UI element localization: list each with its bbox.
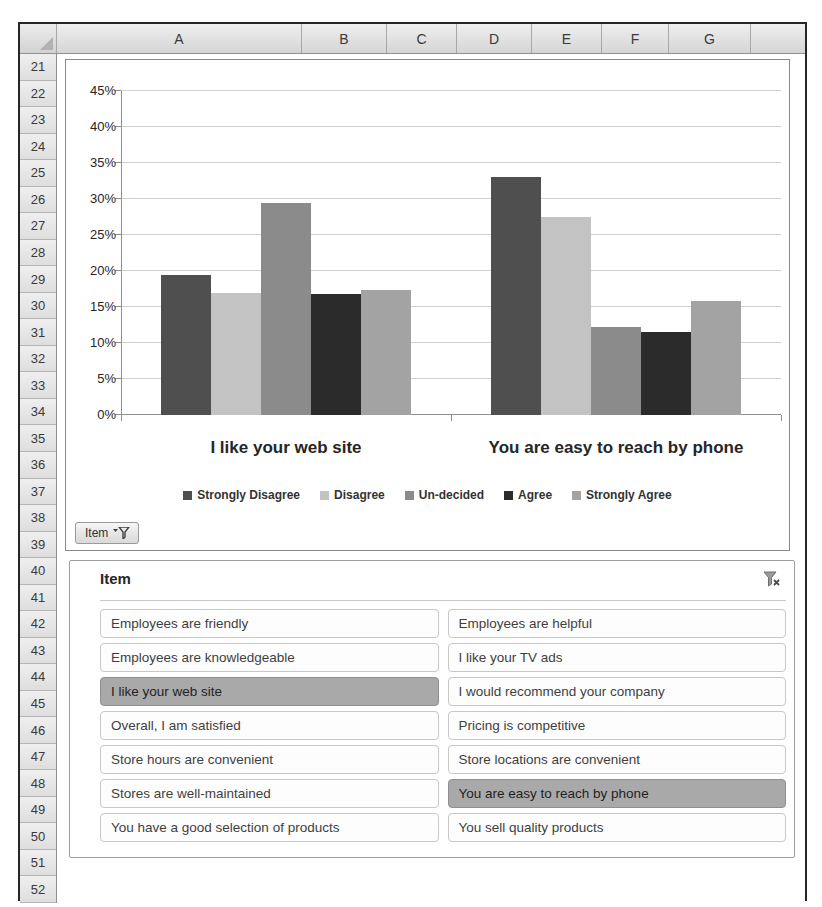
select-all-corner[interactable]	[20, 24, 57, 53]
slicer-item-i-would-recommend-your-company[interactable]: I would recommend your company	[448, 677, 787, 706]
row-header-22[interactable]: 22	[20, 81, 56, 108]
pivot-field-button-label: Item	[85, 526, 108, 540]
bar-disagree-you-are-easy-to-reach-by-phone[interactable]	[541, 217, 591, 415]
row-header-29[interactable]: 29	[20, 266, 56, 293]
slicer-item-store-hours-are-convenient[interactable]: Store hours are convenient	[100, 745, 439, 774]
legend-item-disagree: Disagree	[320, 488, 385, 502]
row-header-47[interactable]: 47	[20, 744, 56, 771]
column-header-row: ABCDEFG	[20, 24, 805, 54]
row-header-33[interactable]: 33	[20, 372, 56, 399]
slicer-item-pricing-is-competitive[interactable]: Pricing is competitive	[448, 711, 787, 740]
row-header-24[interactable]: 24	[20, 134, 56, 161]
slicer-header: Item	[70, 561, 794, 597]
y-axis-tick-label: 15%	[68, 299, 116, 315]
slicer-separator	[100, 600, 786, 601]
bar-strongly-agree-you-are-easy-to-reach-by-phone[interactable]	[691, 301, 741, 415]
bar-series-area	[121, 91, 781, 415]
slicer-item-you-sell-quality-products[interactable]: You sell quality products	[448, 813, 787, 842]
column-headers: ABCDEFG	[57, 24, 805, 53]
row-header-31[interactable]: 31	[20, 319, 56, 346]
row-header-23[interactable]: 23	[20, 107, 56, 134]
y-axis-tick-label: 10%	[68, 335, 116, 351]
row-header-28[interactable]: 28	[20, 240, 56, 267]
legend-label: Strongly Disagree	[197, 488, 300, 502]
column-header-B[interactable]: B	[302, 24, 387, 53]
row-header-21[interactable]: 21	[20, 54, 56, 81]
slicer-item-i-like-your-tv-ads[interactable]: I like your TV ads	[448, 643, 787, 672]
column-header-C[interactable]: C	[387, 24, 457, 53]
row-header-38[interactable]: 38	[20, 505, 56, 532]
column-header-filler	[751, 24, 805, 53]
legend-label: Disagree	[334, 488, 385, 502]
slicer-item-stores-are-well-maintained[interactable]: Stores are well-maintained	[100, 779, 439, 808]
slicer-item-you-are-easy-to-reach-by-phone[interactable]: You are easy to reach by phone	[448, 779, 787, 808]
legend-marker	[405, 491, 414, 500]
row-header-52[interactable]: 52	[20, 876, 56, 903]
excel-worksheet-grab: ABCDEFG 21222324252627282930313233343536…	[18, 22, 807, 901]
legend-label: Un-decided	[419, 488, 484, 502]
y-axis-tick-label: 0%	[68, 407, 116, 423]
slicer-item-employees-are-knowledgeable[interactable]: Employees are knowledgeable	[100, 643, 439, 672]
x-axis-tick	[451, 415, 452, 421]
slicer-item-you-have-a-good-selection-of-products[interactable]: You have a good selection of products	[100, 813, 439, 842]
row-header-44[interactable]: 44	[20, 664, 56, 691]
chart-legend: Strongly DisagreeDisagreeUn-decidedAgree…	[66, 488, 789, 502]
y-axis-tick-label: 20%	[68, 263, 116, 279]
legend-marker	[504, 491, 513, 500]
bar-strongly-disagree-i-like-your-web-site[interactable]	[161, 275, 211, 415]
column-header-A[interactable]: A	[57, 24, 302, 53]
row-header-37[interactable]: 37	[20, 479, 56, 506]
x-axis-tick	[121, 415, 122, 421]
y-axis-tick-label: 25%	[68, 227, 116, 243]
row-header-42[interactable]: 42	[20, 611, 56, 638]
slicer-item-overall-i-am-satisfied[interactable]: Overall, I am satisfied	[100, 711, 439, 740]
slicer-item-list: Employees are friendlyEmployees are help…	[100, 609, 786, 842]
legend-item-strongly-disagree: Strongly Disagree	[183, 488, 300, 502]
clear-filter-icon[interactable]	[762, 569, 782, 589]
bar-strongly-agree-i-like-your-web-site[interactable]	[361, 290, 411, 415]
row-header-36[interactable]: 36	[20, 452, 56, 479]
row-header-49[interactable]: 49	[20, 797, 56, 824]
row-header-41[interactable]: 41	[20, 585, 56, 612]
pivot-field-button[interactable]: Item	[75, 522, 139, 544]
bar-un-decided-i-like-your-web-site[interactable]	[261, 203, 311, 415]
row-header-column: 2122232425262728293031323334353637383940…	[20, 54, 57, 903]
column-header-E[interactable]: E	[532, 24, 602, 53]
column-header-D[interactable]: D	[457, 24, 532, 53]
category-axis-label: I like your web site	[121, 438, 451, 458]
pivot-chart[interactable]: Item 0%5%10%15%20%25%30%35%40%45%I like …	[65, 59, 790, 551]
row-header-26[interactable]: 26	[20, 187, 56, 214]
filter-dropdown-icon	[113, 527, 130, 539]
row-header-25[interactable]: 25	[20, 160, 56, 187]
row-header-40[interactable]: 40	[20, 558, 56, 585]
bar-un-decided-you-are-easy-to-reach-by-phone[interactable]	[591, 327, 641, 415]
row-header-34[interactable]: 34	[20, 399, 56, 426]
column-header-F[interactable]: F	[602, 24, 669, 53]
category-axis-label: You are easy to reach by phone	[451, 438, 781, 458]
row-header-27[interactable]: 27	[20, 213, 56, 240]
legend-marker	[320, 491, 329, 500]
slicer-item-store-locations-are-convenient[interactable]: Store locations are convenient	[448, 745, 787, 774]
bar-strongly-disagree-you-are-easy-to-reach-by-phone[interactable]	[491, 177, 541, 415]
row-header-35[interactable]: 35	[20, 425, 56, 452]
bar-group-you-are-easy-to-reach-by-phone	[451, 91, 781, 415]
row-header-45[interactable]: 45	[20, 691, 56, 718]
item-slicer[interactable]: Item Employees are friendlyEmployees are…	[69, 560, 795, 858]
row-header-39[interactable]: 39	[20, 532, 56, 559]
row-header-48[interactable]: 48	[20, 770, 56, 797]
column-header-G[interactable]: G	[669, 24, 751, 53]
slicer-item-i-like-your-web-site[interactable]: I like your web site	[100, 677, 439, 706]
bar-agree-you-are-easy-to-reach-by-phone[interactable]	[641, 332, 691, 415]
row-header-46[interactable]: 46	[20, 717, 56, 744]
slicer-item-employees-are-helpful[interactable]: Employees are helpful	[448, 609, 787, 638]
bar-disagree-i-like-your-web-site[interactable]	[211, 293, 261, 415]
row-header-43[interactable]: 43	[20, 638, 56, 665]
row-header-50[interactable]: 50	[20, 823, 56, 850]
row-header-32[interactable]: 32	[20, 346, 56, 373]
bar-agree-i-like-your-web-site[interactable]	[311, 294, 361, 415]
x-axis-tick	[781, 415, 782, 421]
row-header-30[interactable]: 30	[20, 293, 56, 320]
y-axis-tick-label: 5%	[68, 371, 116, 387]
row-header-51[interactable]: 51	[20, 850, 56, 877]
slicer-item-employees-are-friendly[interactable]: Employees are friendly	[100, 609, 439, 638]
